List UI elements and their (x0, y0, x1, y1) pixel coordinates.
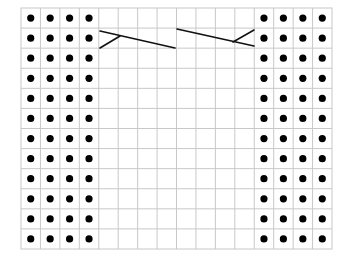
purl-dot-icon (280, 195, 287, 202)
purl-dot-icon (299, 55, 306, 62)
purl-dot-icon (299, 95, 306, 102)
purl-dot-icon (47, 75, 54, 82)
purl-dot-icon (66, 155, 73, 162)
purl-dot-icon (85, 155, 92, 162)
purl-dot-icon (27, 75, 34, 82)
purl-dot-icon (319, 115, 326, 122)
purl-dot-icon (299, 14, 306, 21)
purl-dot-icon (47, 215, 54, 222)
purl-dot-icon (280, 215, 287, 222)
purl-dot-icon (47, 235, 54, 242)
purl-dot-icon (319, 95, 326, 102)
purl-dot-icon (47, 55, 54, 62)
purl-dot-icon (27, 155, 34, 162)
purl-dot-icon (260, 195, 267, 202)
purl-dot-icon (280, 135, 287, 142)
purl-dot-icon (299, 195, 306, 202)
purl-dot-icon (47, 115, 54, 122)
purl-dot-icon (319, 14, 326, 21)
purl-dot-icon (299, 175, 306, 182)
purl-dot-icon (299, 135, 306, 142)
purl-dot-icon (319, 215, 326, 222)
purl-dot-icon (85, 55, 92, 62)
purl-dot-icon (27, 95, 34, 102)
purl-dot-icon (319, 75, 326, 82)
purl-dot-icon (47, 155, 54, 162)
purl-dot-icon (85, 195, 92, 202)
purl-dot-icon (319, 155, 326, 162)
purl-dot-icon (66, 215, 73, 222)
purl-dot-icon (27, 55, 34, 62)
purl-dot-icon (260, 215, 267, 222)
purl-dot-icon (66, 195, 73, 202)
purl-dot-icon (66, 115, 73, 122)
purl-dot-icon (47, 195, 54, 202)
purl-dot-icon (27, 215, 34, 222)
purl-dot-icon (85, 115, 92, 122)
purl-dot-icon (260, 175, 267, 182)
purl-dot-icon (299, 75, 306, 82)
purl-dot-icon (85, 215, 92, 222)
chart-grid (21, 8, 332, 249)
purl-dot-icon (299, 115, 306, 122)
purl-dot-icon (27, 235, 34, 242)
purl-dot-icon (27, 14, 34, 21)
purl-dot-icon (66, 35, 73, 42)
purl-dot-icon (27, 175, 34, 182)
purl-dot-icon (260, 115, 267, 122)
purl-dot-icon (319, 35, 326, 42)
purl-dot-icon (85, 95, 92, 102)
purl-dot-icon (280, 35, 287, 42)
purl-dot-icon (319, 135, 326, 142)
purl-dot-icon (47, 35, 54, 42)
purl-dot-icon (280, 155, 287, 162)
purl-dot-icon (280, 175, 287, 182)
purl-dot-icon (260, 235, 267, 242)
purl-dot-icon (260, 135, 267, 142)
purl-dot-icon (66, 55, 73, 62)
purl-dot-icon (260, 155, 267, 162)
purl-dot-icon (47, 14, 54, 21)
purl-dot-icon (47, 175, 54, 182)
purl-dot-icon (85, 14, 92, 21)
purl-dot-icon (85, 35, 92, 42)
purl-dot-icon (299, 155, 306, 162)
purl-dot-icon (319, 235, 326, 242)
purl-dot-icon (66, 75, 73, 82)
purl-dot-icon (66, 135, 73, 142)
purl-dot-icon (260, 75, 267, 82)
purl-dot-icon (47, 135, 54, 142)
purl-dot-icon (66, 235, 73, 242)
purl-dot-icon (319, 175, 326, 182)
purl-dot-icon (280, 55, 287, 62)
purl-dot-icon (85, 235, 92, 242)
purl-dot-icon (299, 35, 306, 42)
purl-dot-icon (85, 175, 92, 182)
purl-dot-icon (260, 35, 267, 42)
purl-dot-icon (66, 14, 73, 21)
purl-dot-icon (280, 14, 287, 21)
purl-dot-icon (280, 115, 287, 122)
purl-dot-icon (299, 235, 306, 242)
purl-dot-icon (280, 235, 287, 242)
purl-dot-icon (260, 55, 267, 62)
knitting-chart (0, 0, 347, 265)
purl-dot-icon (319, 195, 326, 202)
purl-dot-icon (27, 135, 34, 142)
purl-dot-icon (280, 95, 287, 102)
purl-dot-icon (280, 75, 287, 82)
purl-dot-icon (27, 195, 34, 202)
purl-dot-icon (319, 55, 326, 62)
purl-dot-icon (66, 95, 73, 102)
purl-dot-icon (85, 75, 92, 82)
purl-dot-icon (66, 175, 73, 182)
purl-dot-icon (27, 115, 34, 122)
purl-dot-icon (260, 95, 267, 102)
purl-dot-icon (299, 215, 306, 222)
purl-dot-icon (260, 14, 267, 21)
purl-dot-icon (85, 135, 92, 142)
purl-dot-icon (27, 35, 34, 42)
purl-dot-icon (47, 95, 54, 102)
